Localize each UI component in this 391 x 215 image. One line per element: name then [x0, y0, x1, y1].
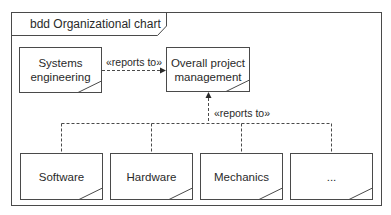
block-more-label: ... — [290, 154, 373, 199]
frame-title: bdd Organizational chart — [30, 17, 161, 31]
block-overall-pm-label: Overall project management — [166, 48, 250, 91]
relation-label-vertical: «reports to» — [214, 106, 270, 120]
label-line: Systems — [38, 56, 82, 70]
label-line: engineering — [30, 70, 90, 84]
dependency-teams-to-pm — [62, 92, 332, 153]
arrowhead-icon — [206, 92, 212, 98]
block-hardware-label: Hardware — [110, 154, 193, 199]
relation-label-horizontal: «reports to» — [106, 55, 162, 69]
block-mechanics-label: Mechanics — [200, 154, 283, 199]
block-systems-engineering-label: Systems engineering — [19, 48, 102, 92]
label-line: management — [174, 70, 241, 84]
block-software-label: Software — [20, 154, 103, 199]
label-line: Overall project — [171, 56, 245, 70]
